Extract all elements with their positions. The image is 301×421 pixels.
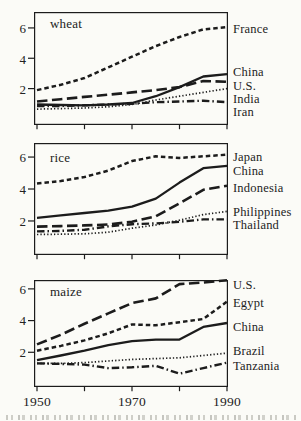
series-line-japan [37,155,227,184]
y-tick-label: 6 [6,151,26,164]
x-tick-label-1950: 1950 [23,395,51,409]
series-label-maize-tanzania: Tanzania [233,360,280,373]
series-line-us [37,81,227,102]
series-label-rice-china: China [233,165,264,178]
x-tick-label-1990: 1990 [213,395,241,409]
y-tick-label: 4 [6,314,26,327]
series-label-maize-china: China [233,321,264,334]
series-line-tanzania [37,363,227,374]
y-tick-label: 2 [6,215,26,228]
series-label-maize-us: U.S. [233,279,256,292]
series-line-china [37,323,227,360]
x-tick-label-1970: 1970 [118,395,146,409]
series-label-rice-japan: Japan [233,151,262,164]
cropped-caption-fragment [6,415,296,420]
wheat-plot [34,12,228,125]
series-label-maize-egypt: Egypt [233,297,264,310]
series-label-wheat-china: China [233,66,264,79]
series-line-france [37,27,227,90]
rice-plot [34,143,228,255]
y-tick-label: 4 [6,53,26,66]
series-label-maize-brazil: Brazil [233,345,265,358]
series-label-rice-thailand: Thailand [233,219,279,232]
crop-yields-figure: wheat rice maize 6 4 2 6 4 2 6 4 2 Franc… [0,0,301,421]
y-tick-label: 2 [6,346,26,359]
plot-frame [35,13,228,125]
series-label-wheat-iran: Iran [233,106,254,119]
y-tick-label: 2 [6,83,26,96]
series-label-rice-indonesia: Indonesia [233,182,283,195]
series-label-wheat-france: France [233,23,268,36]
y-tick-label: 6 [6,22,26,35]
y-tick-label: 6 [6,283,26,296]
maize-plot [34,280,228,387]
series-label-wheat-us: U.S. [233,79,256,92]
series-line-egypt [37,302,227,351]
y-tick-label: 4 [6,183,26,196]
series-line-us [37,280,227,344]
plot-frame [35,281,228,387]
